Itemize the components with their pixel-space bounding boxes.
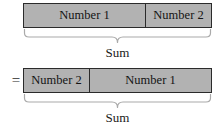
bar-model-diagram: Number 1 Number 2 Sum = Number 2 Number …	[0, 0, 223, 129]
bar-row-top: Number 1 Number 2	[23, 3, 212, 28]
bar-segment-number-1-bottom: Number 1	[89, 69, 211, 92]
equals-sign: =	[8, 69, 24, 91]
brace-top	[23, 29, 212, 43]
sum-label-bottom: Sum	[23, 110, 212, 125]
bar-segment-number-2-top: Number 2	[145, 4, 211, 27]
bar-segment-number-2-bottom: Number 2	[24, 69, 89, 92]
brace-bottom	[23, 94, 212, 108]
bar-segment-number-1-top: Number 1	[24, 4, 145, 27]
sum-label-top: Sum	[23, 45, 212, 60]
bar-row-bottom: Number 2 Number 1	[23, 68, 212, 93]
